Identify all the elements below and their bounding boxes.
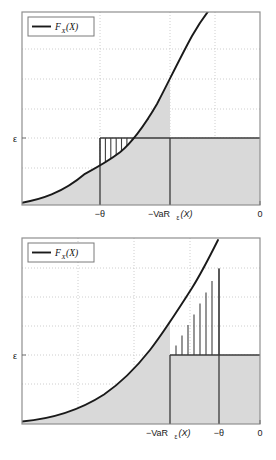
shaded-rect-bottom	[170, 355, 260, 424]
xtick-var-prefix-top: −VaR	[148, 209, 171, 219]
xtick-var-prefix-bottom: −VaR	[146, 428, 169, 438]
xtick-theta-top: −θ	[95, 209, 105, 219]
legend-label-F-bottom: F	[54, 248, 61, 258]
ylabel-epsilon-bottom: ε	[13, 351, 17, 361]
legend-label-F-top: F	[54, 22, 61, 32]
panel-top-canvas: ε −θ −VaR ε (X) 0 F X (X)	[0, 0, 276, 230]
xtick-var-sub-bottom: ε	[175, 433, 178, 440]
xtick-theta-bottom: −θ	[214, 428, 224, 438]
panel-top-svg: ε −θ −VaR ε (X) 0 F X (X)	[0, 0, 276, 230]
chart-panel-bottom: ε −VaR ε (X) −θ 0 F X (X)	[0, 230, 276, 460]
xtick-zero-top: 0	[257, 209, 262, 219]
legend-top[interactable]: F X (X)	[28, 17, 94, 36]
xtick-var-suffix-top: (X)	[181, 209, 193, 219]
panel-bottom-canvas: ε −VaR ε (X) −θ 0 F X (X)	[0, 230, 276, 460]
chart-panel-top: ε −θ −VaR ε (X) 0 F X (X)	[0, 0, 276, 230]
xtick-var-sub-top: ε	[177, 214, 180, 221]
figure-container: ε −θ −VaR ε (X) 0 F X (X)	[0, 0, 276, 460]
legend-label-arg-top: (X)	[66, 22, 78, 33]
ylabel-epsilon-top: ε	[13, 134, 17, 144]
xtick-zero-bottom: 0	[257, 428, 262, 438]
xtick-var-top: −VaR ε (X)	[148, 209, 193, 221]
shaded-rect-top	[170, 138, 260, 205]
legend-label-arg-bottom: (X)	[66, 248, 78, 259]
xtick-var-suffix-bottom: (X)	[179, 428, 191, 438]
xtick-var-bottom: −VaR ε (X)	[146, 428, 191, 440]
panel-bottom-svg: ε −VaR ε (X) −θ 0 F X (X)	[0, 230, 276, 460]
legend-bottom[interactable]: F X (X)	[28, 243, 94, 262]
